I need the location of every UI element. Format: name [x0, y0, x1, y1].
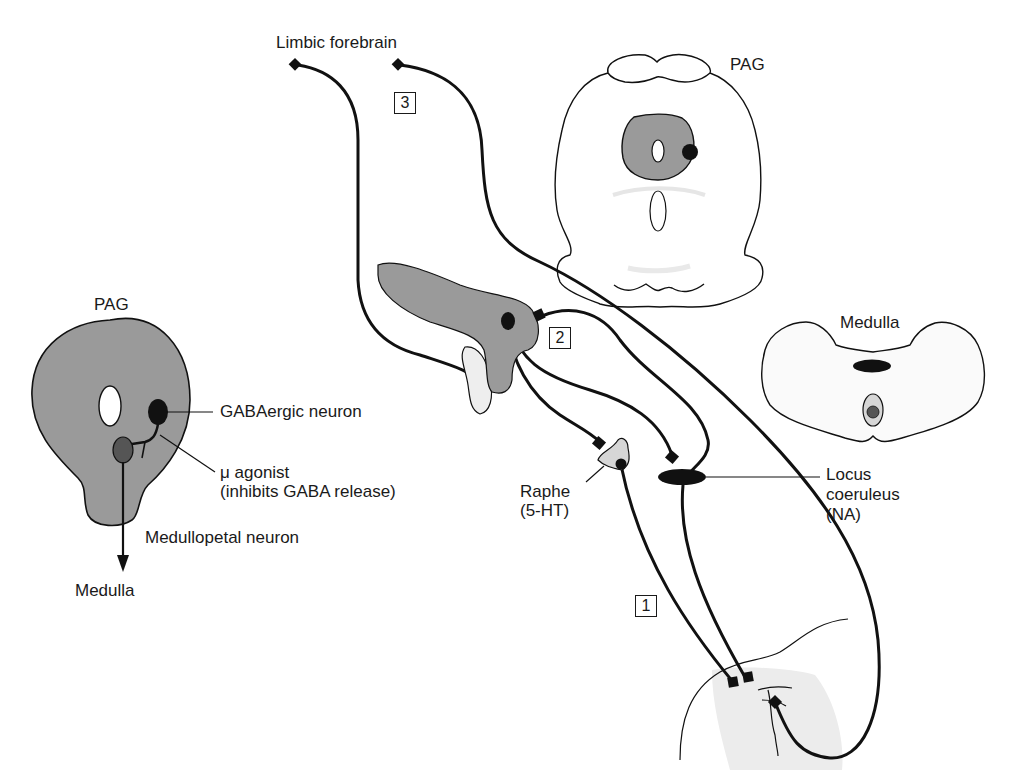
- terminal-spinal-1: [727, 676, 739, 688]
- gaba-neuron-label: GABAergic neuron: [220, 402, 362, 422]
- gaba-neuron-body: [148, 399, 168, 425]
- pag-aqueduct: [652, 140, 664, 162]
- mu-agonist-label: μ agonist: [220, 463, 289, 483]
- spinal-cord-section: [680, 619, 848, 770]
- pathway-2-loop: [542, 311, 745, 677]
- left-pag-title: PAG: [94, 295, 129, 315]
- raphe-to-spinal: [621, 465, 733, 682]
- terminal-lc: [665, 450, 679, 464]
- medulla-target-label: Medulla: [75, 581, 135, 601]
- pathway-box-3: 3: [394, 92, 416, 114]
- raphe-transmitter-label: (5-HT): [520, 501, 569, 521]
- medulla-inner-dot: [867, 406, 879, 418]
- terminal-spinal-2: [742, 671, 754, 683]
- pag-neuron-dot: [682, 144, 698, 160]
- medullopetal-label: Medullopetal neuron: [145, 528, 299, 548]
- gray-nucleus: [378, 263, 538, 393]
- medulla-dark-nucleus: [853, 360, 891, 373]
- descending-pain-pathway-diagram: [0, 0, 1011, 777]
- pag-section-title: PAG: [730, 55, 765, 75]
- mu-agonist-note: (inhibits GABA release): [220, 482, 396, 502]
- limbic-projection-a: [298, 65, 485, 385]
- raphe-label: Raphe: [520, 482, 570, 502]
- rostral-nucleus: [378, 263, 538, 414]
- raphe-neuron: [616, 459, 627, 470]
- raphe-leader-line: [586, 466, 604, 482]
- terminal-limbic-b: [392, 58, 405, 71]
- limbic-forebrain-label: Limbic forebrain: [276, 33, 397, 53]
- lc-label-line2: coeruleus: [826, 485, 900, 505]
- nucleus-neuron: [501, 312, 515, 330]
- medulla-cross-section: [762, 322, 985, 442]
- pathway-box-2: 2: [549, 327, 571, 349]
- terminal-limbic-a: [289, 58, 302, 71]
- pathway-box-1: 1: [635, 595, 657, 617]
- lc-label-line3: (NA): [826, 505, 861, 525]
- aqueduct: [99, 386, 121, 426]
- pag-cross-section: [555, 55, 763, 308]
- lc-label-line1: Locus: [826, 465, 871, 485]
- lc-ellipse: [658, 469, 706, 485]
- medullopetal-neuron-body: [113, 437, 133, 463]
- pag-midline-oval: [650, 191, 666, 231]
- arrow-down-icon: [117, 555, 129, 572]
- medulla-section-title: Medulla: [840, 313, 900, 333]
